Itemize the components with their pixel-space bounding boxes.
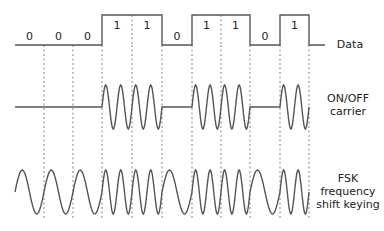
bit-label: 0	[255, 30, 275, 43]
onoff-carrier-label: ON/OFF carrier	[318, 92, 378, 118]
bit-label: 0	[78, 30, 98, 43]
fsk-label-line1: FSK	[312, 172, 384, 185]
fsk-label-line3: shift keying	[312, 198, 384, 211]
onoff-label-line2: carrier	[318, 105, 378, 118]
bit-label: 0	[167, 30, 187, 43]
bit-label: 1	[197, 19, 217, 32]
fsk-label-line2: frequency	[312, 185, 384, 198]
onoff-label-line1: ON/OFF	[318, 92, 378, 105]
data-label: Data	[330, 38, 370, 51]
fsk-label: FSK frequency shift keying	[312, 172, 384, 211]
bit-label: 0	[20, 30, 40, 43]
bit-label: 1	[107, 19, 127, 32]
bit-label: 1	[285, 19, 305, 32]
bit-label: 1	[137, 19, 157, 32]
bit-label: 1	[226, 19, 246, 32]
bit-label: 0	[49, 30, 69, 43]
